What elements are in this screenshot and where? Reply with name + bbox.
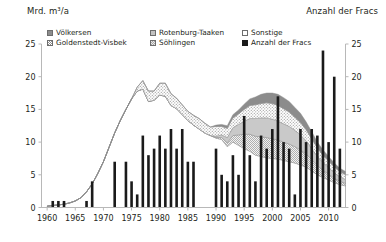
frac-bar: [232, 155, 235, 207]
frac-bar: [113, 162, 116, 208]
frac-bar: [265, 149, 268, 208]
frac-bar: [249, 155, 252, 207]
frac-bar: [254, 181, 257, 207]
frac-bar: [187, 162, 190, 208]
frac-bar: [125, 162, 128, 208]
frac-bar: [333, 77, 336, 208]
frac-bar: [260, 136, 263, 208]
frac-bar: [339, 149, 342, 208]
frac-bar: [277, 96, 280, 207]
frac-bar: [192, 162, 195, 208]
left-axis-ticks: 0510152025: [25, 40, 41, 213]
frac-bar: [237, 175, 240, 208]
frac-bar: [288, 149, 291, 208]
y2-tick-label: 20: [352, 73, 362, 82]
x-tick-label: 2005: [290, 214, 310, 223]
x-tick-label: 1995: [234, 214, 254, 223]
x-tick-label: 1965: [65, 214, 85, 223]
y-tick-label: 0: [30, 204, 35, 213]
frac-bar: [57, 201, 60, 208]
y-tick-label: 5: [30, 171, 35, 180]
gas-production-fracs-chart: Mrd. m³/a Anzahl der Fracs Völkersen Rot…: [0, 0, 386, 242]
right-axis-ticks: 0510152025: [346, 40, 362, 213]
frac-bar: [181, 129, 184, 207]
x-tick-label: 2010: [318, 214, 338, 223]
frac-bar: [175, 149, 178, 208]
frac-bar: [63, 201, 66, 208]
x-tick-label: 1960: [37, 214, 57, 223]
frac-bar: [51, 201, 54, 208]
frac-bar: [164, 149, 167, 208]
frac-bar: [158, 136, 161, 208]
y2-tick-label: 10: [352, 138, 362, 147]
frac-bar: [243, 116, 246, 208]
frac-bar: [327, 142, 330, 207]
x-tick-label: 1975: [121, 214, 141, 223]
frac-bar: [91, 181, 94, 207]
frac-bar: [136, 194, 139, 207]
frac-bar: [226, 181, 229, 207]
x-tick-label: 1970: [93, 214, 113, 223]
y-tick-label: 15: [25, 105, 35, 114]
frac-bar: [271, 129, 274, 207]
x-tick-label: 1985: [178, 214, 198, 223]
x-axis-ticks: 1960196519701975198019851990199520002005…: [37, 208, 339, 223]
y2-tick-label: 0: [352, 204, 357, 213]
frac-bar: [299, 129, 302, 207]
frac-bar: [153, 149, 156, 208]
frac-bar: [316, 136, 319, 208]
frac-bar: [305, 142, 308, 207]
x-tick-label: 1980: [150, 214, 170, 223]
frac-bar: [170, 129, 173, 207]
y-tick-label: 25: [25, 40, 35, 49]
y2-tick-label: 5: [352, 171, 357, 180]
frac-bar: [147, 155, 150, 207]
frac-bar: [130, 181, 133, 207]
frac-bar: [282, 142, 285, 207]
y2-tick-label: 15: [352, 105, 362, 114]
y-tick-label: 20: [25, 73, 35, 82]
frac-bar: [220, 175, 223, 208]
frac-bar: [322, 51, 325, 208]
x-tick-label: 1990: [206, 214, 226, 223]
x-tick-label: 2000: [262, 214, 282, 223]
y-tick-label: 10: [25, 138, 35, 147]
frac-bar: [142, 136, 145, 208]
y2-tick-label: 25: [352, 40, 362, 49]
frac-bar: [294, 194, 297, 207]
frac-bar: [85, 201, 88, 208]
frac-bar: [215, 149, 218, 208]
plot-area: 0510152025 0510152025 196019651970197519…: [0, 0, 386, 242]
frac-bar: [310, 129, 313, 207]
